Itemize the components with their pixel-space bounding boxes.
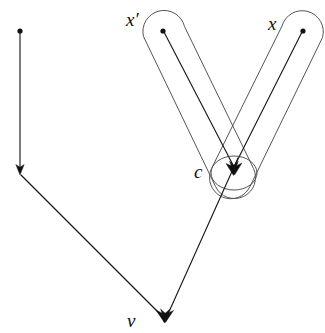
label-v: v (127, 310, 136, 331)
edge-group (20, 32, 302, 314)
node-top-left (17, 28, 22, 33)
edge-midleft-to-v (21, 175, 160, 314)
node-x-prime (160, 28, 165, 33)
capsule-x (210, 11, 324, 199)
graph-diagram: x′ x c v (0, 0, 325, 333)
label-c: c (194, 161, 203, 182)
edge-xprime-to-c (164, 32, 233, 165)
arrowhead-group (16, 161, 242, 323)
edge-c-to-v (168, 158, 238, 314)
label-x-prime: x′ (125, 9, 139, 30)
node-x (300, 28, 305, 33)
node-group (17, 28, 305, 33)
figure-canvas: x′ x c v (0, 0, 325, 333)
label-x: x (267, 13, 277, 34)
edge-x-to-c (235, 32, 302, 165)
